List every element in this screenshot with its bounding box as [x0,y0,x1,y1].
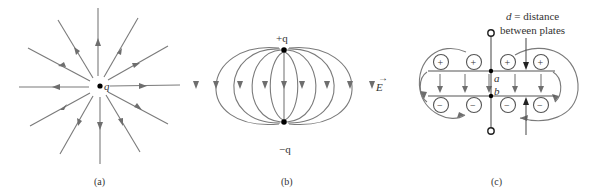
svg-text:−: − [504,100,510,111]
dipole-arrows [193,81,375,89]
bottom-terminal [488,128,494,134]
svg-text:+: + [438,57,444,68]
positive-charge-label: +q [276,32,288,44]
point-a-dot [489,69,493,73]
panel-c: + + + + − − − − a b d = distance between… [419,10,578,188]
positive-charge [281,47,287,53]
panel-b: +q −q E → (b) [193,32,388,188]
electric-field-figure: q (a) +q −q [0,0,592,192]
negative-charge [281,119,287,125]
point-charge [97,83,102,88]
svg-text:+: + [538,57,544,68]
distance-annotation-line2: between plates [500,24,565,36]
charge-label-q: q [104,80,110,92]
caption-b: (b) [281,176,293,188]
svg-text:−: − [537,100,543,111]
distance-arrowhead-top [523,62,529,70]
point-b-dot [489,94,493,98]
distance-annotation-line1: d = distance [506,10,559,22]
svg-text:−: − [470,100,476,111]
negative-charge-label: −q [279,143,291,155]
top-terminal [488,30,494,36]
panel-a: q (a) [19,8,180,188]
svg-text:−: − [437,100,443,111]
field-vector-arrow: → [378,72,388,83]
distance-arrowhead-bottom [523,97,529,105]
caption-a: (a) [94,176,105,188]
caption-c: (c) [491,176,502,188]
svg-text:+: + [505,57,511,68]
point-b-label: b [494,85,500,97]
svg-text:+: + [471,57,477,68]
point-a-label: a [494,72,500,84]
